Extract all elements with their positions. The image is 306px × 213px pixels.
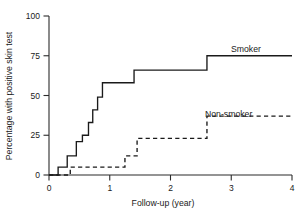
- series-label-smoker: Smoker: [231, 44, 261, 54]
- x-tick-label-0: 0: [47, 183, 52, 193]
- y-tick-label-100: 100: [26, 11, 40, 21]
- series-label-non-smoker: Non-smoker: [205, 109, 252, 119]
- x-axis-ticks: [49, 175, 292, 181]
- survival-step-chart: 0 25 50 75 100 0 1 2 3 4 Follow-up (year…: [0, 0, 306, 213]
- y-tick-label-0: 0: [35, 170, 40, 180]
- series-non-smoker-line: [49, 116, 292, 175]
- x-tick-label-2: 2: [168, 183, 173, 193]
- series-smoker-line: [49, 56, 292, 175]
- y-tick-label-75: 75: [31, 51, 41, 61]
- y-axis-title: Percentage with positive skin test: [4, 31, 14, 160]
- y-tick-label-50: 50: [31, 91, 41, 101]
- x-axis-title: Follow-up (year): [132, 198, 195, 208]
- y-tick-label-25: 25: [31, 130, 41, 140]
- chart-figure: 0 25 50 75 100 0 1 2 3 4 Follow-up (year…: [0, 0, 306, 213]
- y-axis-ticks: [44, 16, 50, 175]
- x-tick-label-3: 3: [229, 183, 234, 193]
- x-tick-label-1: 1: [107, 183, 112, 193]
- x-tick-label-4: 4: [290, 183, 295, 193]
